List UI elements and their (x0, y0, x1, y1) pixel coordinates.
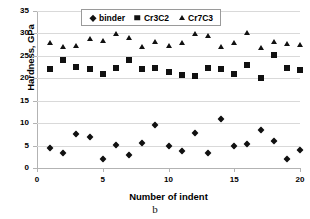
point-Cr7C3-7 (126, 35, 132, 40)
point-Cr7C3-1 (47, 40, 53, 45)
point-Cr3C2-11 (179, 72, 185, 78)
x-tick-mark-15 (234, 168, 235, 172)
point-binder-16 (244, 141, 251, 148)
x-tick-mark-0 (37, 168, 38, 172)
point-Cr3C2-18 (271, 52, 277, 58)
point-Cr7C3-10 (166, 43, 172, 48)
point-Cr3C2-10 (166, 69, 172, 75)
point-binder-2 (60, 150, 67, 157)
point-Cr7C3-17 (258, 45, 264, 50)
x-tick-label-20: 20 (290, 176, 310, 184)
point-Cr3C2-8 (139, 66, 145, 72)
point-Cr7C3-3 (73, 43, 79, 48)
gridline-y-25 (37, 56, 300, 57)
y-tick-label-35: 35 (5, 7, 29, 15)
point-Cr7C3-20 (297, 42, 303, 47)
point-binder-6 (112, 142, 119, 149)
point-Cr7C3-8 (139, 44, 145, 49)
point-binder-10 (165, 142, 172, 149)
x-tick-mark-5 (103, 168, 104, 172)
x-tick-label-0: 0 (27, 176, 47, 184)
gridline-y-30 (37, 33, 300, 34)
point-Cr3C2-12 (192, 73, 198, 79)
point-Cr3C2-15 (231, 71, 237, 77)
point-binder-14 (218, 116, 225, 123)
point-Cr7C3-18 (271, 39, 277, 44)
y-tick-label-30: 30 (5, 29, 29, 37)
point-binder-19 (283, 156, 290, 163)
point-Cr7C3-4 (87, 36, 93, 41)
point-binder-3 (73, 130, 80, 137)
gridline-y-10 (37, 123, 300, 124)
point-Cr7C3-5 (100, 38, 106, 43)
plot-area (37, 11, 300, 168)
gridline-y-15 (37, 101, 300, 102)
point-Cr3C2-19 (284, 65, 290, 71)
x-tick-mark-10 (169, 168, 170, 172)
point-Cr3C2-5 (100, 71, 106, 77)
y-axis-title: Hardness, GPa (25, 0, 36, 126)
point-Cr3C2-1 (47, 66, 53, 72)
point-binder-17 (257, 127, 264, 134)
x-axis-title: Number of indent (37, 191, 300, 202)
figure-panel: Hardness, GPa 05101520253035 05101520 bi… (0, 0, 310, 219)
point-Cr7C3-19 (284, 41, 290, 46)
point-Cr7C3-12 (192, 31, 198, 36)
triangle-marker-icon (178, 14, 185, 22)
point-binder-12 (191, 130, 198, 137)
point-binder-18 (270, 137, 277, 144)
point-Cr3C2-17 (258, 75, 264, 81)
figure-caption: b (0, 203, 310, 215)
square-marker-icon (134, 14, 141, 22)
x-tick-label-15: 15 (224, 176, 244, 184)
point-binder-4 (86, 134, 93, 141)
point-Cr7C3-2 (60, 44, 66, 49)
y-tick-label-0: 0 (5, 164, 29, 172)
point-Cr3C2-7 (126, 57, 132, 63)
point-binder-5 (99, 155, 106, 162)
y-tick-label-20: 20 (5, 74, 29, 82)
point-binder-7 (126, 151, 133, 158)
point-Cr3C2-3 (73, 64, 79, 70)
y-tick-label-15: 15 (5, 97, 29, 105)
legend-entry-Cr7C3: Cr7C3 (178, 13, 213, 23)
point-Cr7C3-9 (152, 39, 158, 44)
diamond-marker-icon (89, 14, 96, 22)
y-tick-label-25: 25 (5, 52, 29, 60)
y-tick-label-10: 10 (5, 119, 29, 127)
point-binder-11 (178, 148, 185, 155)
legend-label: Cr3C2 (144, 13, 169, 23)
point-Cr3C2-14 (218, 66, 224, 72)
point-Cr3C2-9 (152, 65, 158, 71)
point-Cr3C2-4 (87, 66, 93, 72)
legend-label: Cr7C3 (188, 13, 213, 23)
point-Cr7C3-16 (244, 30, 250, 35)
legend-entry-Cr3C2: Cr3C2 (134, 13, 169, 23)
y-tick-label-5: 5 (5, 142, 29, 150)
point-binder-20 (296, 146, 303, 153)
point-Cr7C3-14 (218, 44, 224, 49)
point-Cr7C3-13 (205, 33, 211, 38)
x-tick-label-10: 10 (159, 176, 179, 184)
point-Cr7C3-15 (231, 40, 237, 45)
point-Cr7C3-11 (179, 40, 185, 45)
point-Cr3C2-13 (205, 65, 211, 71)
chart-legend: binderCr3C2Cr7C3 (81, 9, 221, 26)
point-Cr3C2-2 (60, 57, 66, 63)
x-tick-label-5: 5 (93, 176, 113, 184)
point-Cr7C3-6 (113, 31, 119, 36)
point-binder-13 (204, 149, 211, 156)
x-tick-mark-20 (300, 168, 301, 172)
point-Cr3C2-16 (244, 62, 250, 68)
legend-entry-binder: binder (89, 13, 125, 23)
point-Cr3C2-20 (297, 67, 303, 73)
legend-label: binder (99, 13, 125, 23)
point-Cr3C2-6 (113, 65, 119, 71)
point-binder-15 (231, 143, 238, 150)
